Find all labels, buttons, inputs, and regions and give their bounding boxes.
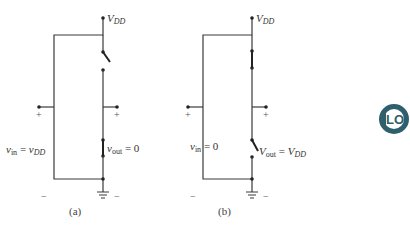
panel-a-output-minus: − (114, 191, 120, 202)
panel-b: VDD + + vin = 0 Vout = VDD − − (b) (185, 12, 306, 218)
panel-a-pullup-switch-open (103, 52, 110, 62)
panel-a-input-minus: − (41, 191, 47, 202)
panel-b-loop-wire (203, 18, 252, 179)
panel-a-caption: (a) (69, 205, 82, 218)
panel-a-output-label: vout = 0 (107, 142, 140, 156)
panel-b-vdd-label: VDD (256, 12, 275, 26)
panel-a-loop-wire (54, 18, 103, 179)
panel-a-ground-node (101, 177, 105, 181)
panel-a: VDD + + vin = vDD vout = 0 − − (a) (6, 12, 140, 218)
panel-b-output-label: Vout = VDD (259, 145, 306, 159)
panel-b-input-plus: + (185, 109, 191, 120)
panel-b-ground-icon (246, 192, 258, 198)
svg-text:LO: LO (386, 112, 404, 127)
panel-b-input-minus: − (190, 191, 196, 202)
panel-a-input-plus: + (36, 109, 42, 120)
panel-b-pulldown-switch-open (252, 140, 258, 151)
panel-b-input-label: vin = 0 (190, 140, 219, 154)
panel-b-vdd-node (250, 16, 254, 20)
panel-a-input-label: vin = vDD (6, 143, 46, 157)
panel-a-ground-icon (97, 192, 109, 198)
panel-a-vdd-label: VDD (107, 12, 126, 26)
panel-a-vdd-node (101, 16, 105, 20)
lo-logo-icon[interactable]: LO (378, 103, 410, 135)
panel-a-output-plus: + (114, 109, 120, 120)
panel-b-output-plus: + (263, 109, 269, 120)
panel-b-output-minus: − (263, 191, 269, 202)
panel-b-caption: (b) (218, 205, 231, 218)
panel-b-ground-node (250, 177, 254, 181)
